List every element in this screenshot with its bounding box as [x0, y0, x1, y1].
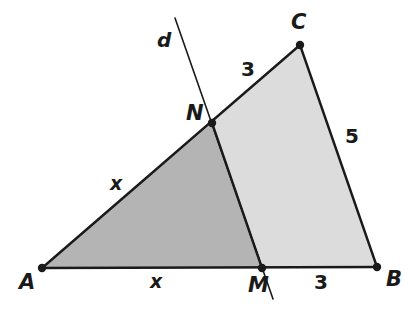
line-d-label: d	[157, 30, 171, 50]
measure-label-nc: 3	[241, 59, 255, 79]
vertex-label-b: B	[386, 269, 402, 290]
measure-label-am: x	[150, 272, 162, 291]
vertex-dot-b	[373, 263, 381, 271]
vertex-dot-n	[208, 119, 216, 127]
vertex-dot-c	[296, 41, 304, 49]
vertex-label-a: A	[19, 272, 35, 293]
segment-ab	[42, 267, 377, 268]
measure-label-an: x	[110, 174, 122, 193]
measure-label-cb: 5	[345, 126, 359, 146]
vertex-dot-a	[38, 264, 46, 272]
geometry-figure: d A B C M N x 3 5 x 3	[0, 0, 404, 309]
measure-label-mb: 3	[314, 272, 328, 292]
vertex-label-m: M	[248, 275, 269, 296]
vertex-dot-m	[258, 264, 266, 272]
vertex-label-n: N	[186, 103, 204, 124]
geometry-canvas	[0, 0, 404, 309]
vertex-label-c: C	[291, 12, 306, 33]
